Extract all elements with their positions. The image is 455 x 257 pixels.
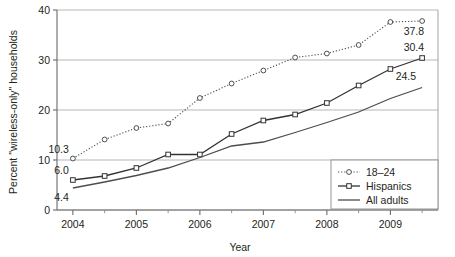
data-point-marker [229, 132, 234, 137]
start-value-label: 10.3 [48, 143, 69, 155]
x-tick-label: 2006 [188, 218, 212, 230]
x-tick-label: 2007 [252, 218, 276, 230]
start-value-label: 4.4 [54, 191, 69, 203]
x-tick-label: 2008 [315, 218, 339, 230]
data-point-marker [71, 178, 76, 183]
data-point-marker [356, 83, 361, 88]
legend-marker [347, 170, 352, 175]
y-tick-label: 40 [38, 4, 50, 16]
chart-legend: 18–24HispanicsAll adults [331, 160, 438, 209]
data-point-marker [229, 81, 234, 86]
data-point-marker [293, 55, 298, 60]
data-point-marker [102, 174, 107, 179]
data-point-marker [134, 126, 139, 131]
data-point-marker [102, 137, 107, 142]
x-tick-label: 2009 [379, 218, 403, 230]
data-point-marker [166, 121, 171, 126]
legend-marker [347, 184, 352, 189]
data-point-marker [134, 166, 139, 171]
y-tick-label: 30 [38, 54, 50, 66]
legend-item-label: Hispanics [366, 180, 412, 192]
legend-item-label: 18–24 [366, 166, 395, 178]
start-value-label: 6.0 [54, 164, 69, 176]
data-point-marker [388, 67, 393, 72]
y-tick-label: 10 [38, 154, 50, 166]
x-axis-title: Year [229, 241, 251, 253]
data-point-marker [261, 118, 266, 123]
line-chart: 010203040 200420052006200720082009 10.33… [0, 0, 455, 257]
data-point-marker [325, 101, 330, 106]
data-point-marker [420, 19, 425, 24]
data-point-marker [293, 112, 298, 117]
end-value-label: 24.5 [396, 70, 417, 82]
x-tick-label: 2005 [125, 218, 149, 230]
data-point-marker [261, 68, 266, 73]
legend-item-label: All adults [366, 194, 409, 206]
end-value-label: 30.4 [404, 41, 425, 53]
end-value-label: 37.8 [404, 25, 425, 37]
data-point-marker [356, 43, 361, 48]
data-point-marker [324, 51, 329, 56]
data-point-marker [388, 20, 393, 25]
data-point-marker [70, 156, 75, 161]
x-tick-label: 2004 [61, 218, 85, 230]
y-tick-label: 20 [38, 104, 50, 116]
data-point-marker [198, 152, 203, 157]
data-point-marker [420, 56, 425, 61]
data-point-marker [197, 96, 202, 101]
data-point-marker [166, 152, 171, 157]
chart-figure: 010203040 200420052006200720082009 10.33… [0, 0, 455, 257]
y-tick-label: 0 [44, 204, 50, 216]
y-axis-title: Percent "wireless-only" households [7, 30, 19, 194]
